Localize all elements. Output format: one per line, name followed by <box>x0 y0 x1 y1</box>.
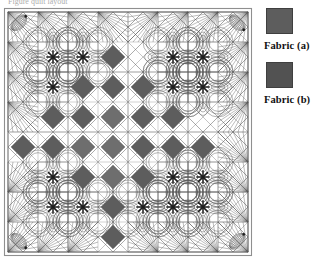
fan-ray <box>228 192 248 222</box>
fan-ray <box>138 12 158 42</box>
fan-ray <box>38 12 68 37</box>
fan-ray <box>223 132 248 162</box>
fan-ray <box>223 102 248 132</box>
fan-ray <box>228 72 248 102</box>
fan-ray <box>8 222 18 252</box>
fan-ray <box>218 102 248 127</box>
star-node <box>77 201 89 213</box>
star-node <box>167 171 179 183</box>
fan-ray <box>218 142 248 162</box>
fan-diamond-block <box>218 42 248 72</box>
fabric-b-label: Fabric (b) <box>264 94 310 106</box>
fan-ray <box>8 42 38 62</box>
fan-ray <box>8 102 38 122</box>
fan-ray <box>238 12 248 42</box>
fan-ray <box>8 102 33 132</box>
fan-ray <box>228 222 248 252</box>
star-hub <box>52 56 55 59</box>
star-hub <box>82 206 85 209</box>
star-hub <box>172 86 175 89</box>
star-node <box>47 51 59 63</box>
fan-ray <box>138 222 158 252</box>
fan-ray <box>8 162 33 192</box>
fan-ray <box>188 242 218 252</box>
fabric-a-label: Fabric (a) <box>264 40 310 52</box>
fan-ray <box>128 12 158 22</box>
fan-ray <box>158 12 188 22</box>
fan-ray <box>68 222 88 252</box>
fan-ray <box>68 12 98 22</box>
corner-leaf-motif <box>226 230 248 252</box>
fan-diamond-block <box>38 222 68 252</box>
fan-ray <box>8 232 38 252</box>
lattice-block <box>128 42 158 72</box>
fan-ray <box>228 12 248 42</box>
fan-ray <box>68 12 88 42</box>
fan-ray <box>8 162 28 192</box>
star-node <box>167 51 179 63</box>
corner-leaf-motif <box>8 230 30 252</box>
corner-leaf-motif <box>8 12 30 34</box>
fan-ray <box>38 12 58 42</box>
fan-diamond-block <box>158 12 188 42</box>
quilt-fabric-pieces <box>11 45 215 249</box>
fan-ray <box>218 137 248 162</box>
legend-entry-fabric-b: Fabric (b) <box>264 62 310 106</box>
fan-ray <box>198 12 218 42</box>
fan-ray <box>158 232 188 252</box>
fan-ray <box>238 72 248 102</box>
fan-ray <box>8 202 38 222</box>
fan-ray <box>223 192 248 222</box>
fan-diamond-block <box>218 132 248 162</box>
fan-ray <box>158 12 188 32</box>
fan-ray <box>238 102 248 132</box>
fan-ray <box>223 42 248 72</box>
star-node <box>197 81 209 93</box>
fan-ray <box>8 172 38 192</box>
fan-ray <box>38 232 68 252</box>
fan-ray <box>218 242 248 252</box>
fan-ray <box>218 42 248 62</box>
fan-ray <box>38 222 58 252</box>
fan-ray <box>198 222 218 252</box>
fan-ray <box>168 222 188 252</box>
fan-diamond-block <box>68 12 98 42</box>
fan-ray <box>238 162 248 192</box>
star-node <box>167 81 179 93</box>
star-node <box>47 171 59 183</box>
fan-diamond-block <box>188 222 218 252</box>
fan-ray <box>98 12 118 42</box>
star-node <box>197 171 209 183</box>
fan-ray <box>8 102 18 132</box>
fan-ray <box>168 12 188 42</box>
fan-ray <box>68 12 98 37</box>
fan-diamond-block <box>8 72 38 102</box>
fan-ray <box>238 192 248 222</box>
star-node <box>47 81 59 93</box>
fan-ray <box>8 72 38 92</box>
star-hub <box>172 56 175 59</box>
star-node <box>197 51 209 63</box>
fan-diamond-block <box>8 42 38 72</box>
lattice-block <box>188 102 218 132</box>
star-hub <box>202 176 205 179</box>
fan-ray <box>228 162 248 192</box>
star-hub <box>82 56 85 59</box>
fan-ray <box>38 12 68 22</box>
fan-ray <box>188 227 218 252</box>
figure-root: Figure quilt layout Fabric (a) Fabric (b… <box>0 0 316 264</box>
fan-ray <box>38 227 68 252</box>
fan-ray <box>8 42 18 72</box>
fan-ray <box>133 12 158 42</box>
fan-ray <box>218 72 248 92</box>
star-hub <box>172 176 175 179</box>
quilt-linework <box>5 9 252 256</box>
fan-diamond-block <box>68 222 98 252</box>
quilt-svg <box>0 0 258 264</box>
fan-diamond-block <box>188 12 218 42</box>
fan-diamond-block <box>8 192 38 222</box>
fan-diamond-block <box>98 12 128 42</box>
fan-ray <box>218 102 248 122</box>
fan-ray <box>8 12 38 32</box>
star-node <box>197 201 209 213</box>
